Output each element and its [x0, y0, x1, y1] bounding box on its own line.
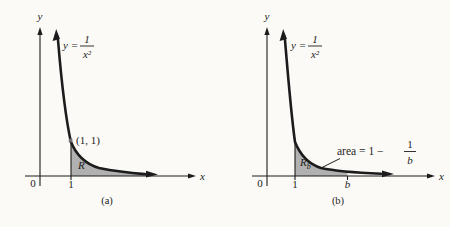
equation-denominator-b: x²	[310, 48, 320, 60]
area-label-prefix: area = 1 −	[337, 145, 384, 157]
area-fraction-numerator: 1	[407, 138, 413, 150]
equation-numerator-a: 1	[84, 33, 90, 45]
point-1-1-dot	[69, 139, 73, 143]
origin-label-a: 0	[30, 177, 36, 189]
region-r-label: R	[77, 159, 85, 171]
x-axis-arrowhead-a	[188, 173, 196, 178]
y-axis-label-b: y	[264, 10, 270, 22]
x-axis-label-a: x	[199, 170, 205, 182]
point-1-1-label: (1, 1)	[76, 134, 100, 147]
curve-top-arrowhead-a	[53, 29, 60, 41]
figure-improper-integral: y x y = 1 x² (1, 1) R 0 1 (a)	[0, 0, 450, 227]
y-axis-arrowhead-a	[37, 27, 42, 35]
panel-b: y x y = 1 x² Rb area = 1 − 1 b 0 1 b (b)	[252, 10, 444, 207]
figure-canvas: y x y = 1 x² (1, 1) R 0 1 (a)	[0, 0, 450, 227]
equation-denominator-a: x²	[82, 48, 92, 60]
equation-b: y = 1 x²	[290, 33, 322, 60]
equation-lhs-a: y =	[62, 39, 78, 51]
area-label: area = 1 − 1 b	[337, 138, 416, 166]
y-axis-label-a: y	[37, 10, 43, 22]
x-tick-1-label-a: 1	[68, 178, 74, 190]
equation-a: y = 1 x²	[62, 33, 94, 60]
curve-right-arrowhead-a	[146, 171, 158, 178]
caption-a: (a)	[101, 195, 113, 207]
origin-label-b: 0	[257, 177, 263, 189]
x-tick-b-label: b	[345, 178, 351, 190]
x-axis-label-b: x	[438, 170, 444, 182]
area-fraction-denominator: b	[407, 154, 413, 166]
caption-b: (b)	[332, 195, 345, 207]
x-axis-arrowhead-b	[427, 173, 435, 178]
panel-a: y x y = 1 x² (1, 1) R 0 1 (a)	[25, 10, 205, 207]
equation-lhs-b: y =	[290, 39, 306, 51]
y-axis-arrowhead-b	[264, 27, 269, 35]
equation-numerator-b: 1	[312, 33, 318, 45]
area-label-pointer-line	[322, 159, 340, 168]
region-rb-label-sub: b	[307, 162, 311, 171]
curve-top-arrowhead-b	[280, 29, 287, 41]
x-tick-1-label-b: 1	[292, 178, 298, 190]
